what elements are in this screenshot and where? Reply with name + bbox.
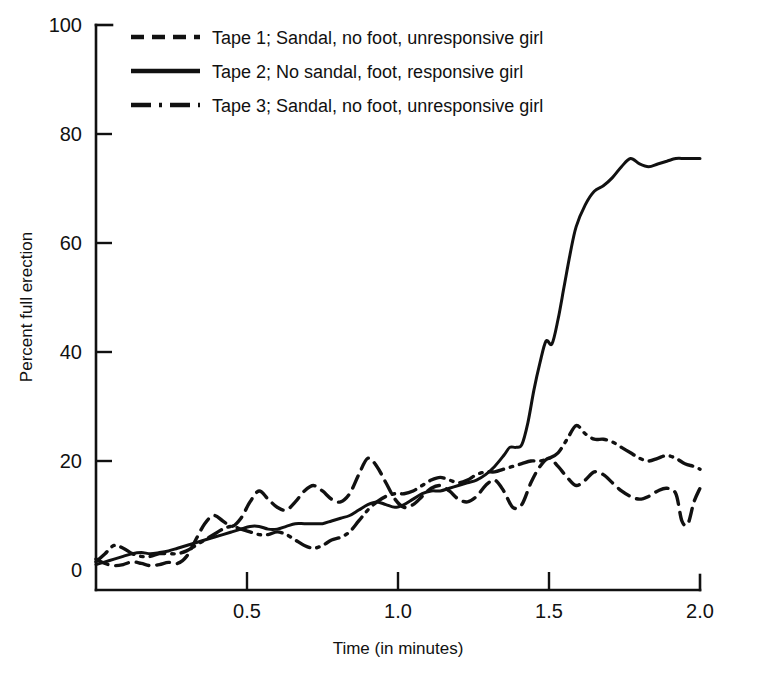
x-axis-title: Time (in minutes) [333, 639, 464, 658]
y-axis-title: Percent full erection [17, 232, 36, 382]
line-chart: 020406080100 0.51.01.52.0 Time (in minut… [0, 0, 757, 676]
x-tick-label: 0.5 [233, 600, 261, 622]
y-tick-group: 020406080100 [49, 14, 112, 581]
legend-entry-tape-1: Tape 1; Sandal, no foot, unresponsive gi… [131, 28, 543, 48]
chart-figure: 020406080100 0.51.01.52.0 Time (in minut… [0, 0, 757, 676]
y-tick-label: 60 [60, 232, 82, 254]
series-line-tape-3 [96, 425, 700, 561]
legend-label-tape-3: Tape 3; Sandal, no foot, unresponsive gi… [212, 96, 543, 116]
y-tick-label: 80 [60, 123, 82, 145]
x-tick-group: 0.51.01.52.0 [233, 572, 714, 622]
x-tick-label: 2.0 [686, 600, 714, 622]
legend-label-tape-2: Tape 2; No sandal, foot, responsive girl [212, 62, 523, 82]
legend-entry-tape-2: Tape 2; No sandal, foot, responsive girl [131, 62, 523, 82]
x-tick-label: 1.0 [384, 600, 412, 622]
chart-legend: Tape 1; Sandal, no foot, unresponsive gi… [131, 28, 543, 116]
legend-entry-tape-3: Tape 3; Sandal, no foot, unresponsive gi… [131, 96, 543, 116]
y-tick-label: 100 [49, 14, 82, 36]
legend-label-tape-1: Tape 1; Sandal, no foot, unresponsive gi… [212, 28, 543, 48]
y-tick-label: 0 [71, 559, 82, 581]
x-tick-label: 1.5 [535, 600, 563, 622]
y-tick-label: 40 [60, 341, 82, 363]
y-tick-label: 20 [60, 450, 82, 472]
